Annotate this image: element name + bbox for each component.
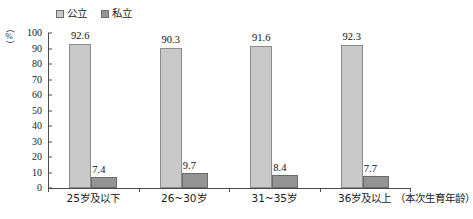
- x-axis-tick-mark: [320, 188, 321, 192]
- y-axis-tick-text: 70: [32, 75, 44, 85]
- x-axis-tick-mark: [229, 188, 230, 192]
- y-axis-tick-label: 0: [0, 183, 44, 193]
- y-axis-tick-text: 80: [32, 59, 44, 69]
- y-axis-tick-text: 50: [32, 106, 44, 116]
- y-axis-tick-label: 30: [0, 137, 44, 147]
- x-axis-category-label: 26~30岁: [161, 192, 207, 204]
- y-axis-tick-label: 80: [0, 59, 44, 69]
- x-axis-tick-mark: [48, 188, 49, 192]
- legend-item-public: 公立: [56, 8, 87, 19]
- legend-label-public: 公立: [67, 8, 87, 19]
- x-axis-tick-mark: [139, 188, 140, 192]
- y-axis-tick-label: 90: [0, 44, 44, 54]
- bar-value-label-public: 92.3: [338, 31, 366, 42]
- legend-swatch-public: [56, 10, 64, 18]
- x-axis-category-label: 25岁及以下: [67, 192, 120, 204]
- y-axis-tick-text: 90: [32, 44, 44, 54]
- chart-legend: 公立 私立: [56, 6, 132, 21]
- y-axis-tick-text: 40: [32, 121, 44, 131]
- legend-item-private: 私立: [101, 8, 132, 19]
- y-axis-tick-label: 20: [0, 152, 44, 162]
- y-axis-tick-label: 60: [0, 90, 44, 100]
- plot-area: 92.67.490.39.791.68.492.37.7: [48, 33, 410, 188]
- bar-public: [341, 45, 363, 188]
- y-axis-tick-text: 0: [37, 183, 44, 193]
- legend-label-private: 私立: [112, 8, 132, 19]
- x-axis-category-label: 36岁及以上: [338, 192, 391, 204]
- y-axis-tick-text: 30: [32, 137, 44, 147]
- bar-group: 92.37.7: [48, 33, 410, 188]
- y-axis-tick-label: 100: [0, 28, 44, 38]
- y-axis-tick-text: 60: [32, 90, 44, 100]
- y-axis-tick-label: 70: [0, 75, 44, 85]
- y-axis-tick-text: 10: [32, 168, 44, 178]
- legend-swatch-private: [101, 10, 109, 18]
- bar-value-label-private: 7.7: [364, 163, 377, 174]
- x-axis-title: （本次生育年龄）: [395, 192, 473, 204]
- y-axis-tick-label: 50: [0, 106, 44, 116]
- y-axis-tick-label: 10: [0, 168, 44, 178]
- x-axis-category-label: 31~35岁: [251, 192, 297, 204]
- y-axis-tick-text: 20: [32, 152, 44, 162]
- y-axis-tick-label: 40: [0, 121, 44, 131]
- y-axis-tick-text: 100: [27, 28, 44, 38]
- bar-private: [363, 176, 389, 188]
